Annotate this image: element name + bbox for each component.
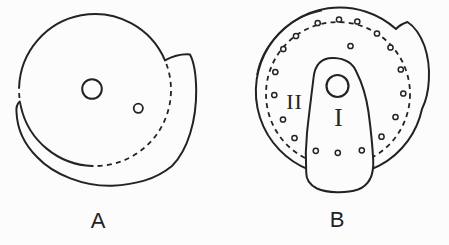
perforation-dot xyxy=(335,150,340,155)
region-label-inner: I xyxy=(334,104,342,131)
panel-a-caption: A xyxy=(91,208,106,233)
perforation-dot xyxy=(398,67,403,72)
perforation-dot xyxy=(293,33,298,38)
inner-perforation-dot xyxy=(348,43,353,48)
perforation-dot xyxy=(313,148,318,153)
panel-b-caption: B xyxy=(330,207,345,232)
operculum-figure: A II I B xyxy=(0,0,449,245)
perforation-dot xyxy=(315,20,320,25)
perforation-dot xyxy=(281,46,286,51)
perforation-dot xyxy=(355,19,360,24)
perforation-dot xyxy=(393,114,398,119)
figure-canvas: A II I B xyxy=(0,0,449,245)
perforation-dot xyxy=(388,45,393,50)
perforation-dot xyxy=(401,91,406,96)
perforation-dot xyxy=(273,69,278,74)
panel-b-disc: II I B xyxy=(256,7,429,232)
panel-a-disc: A xyxy=(16,14,196,233)
perforation-dot xyxy=(272,92,277,97)
region-label-outer: II xyxy=(286,89,303,114)
disc-a-body-fill xyxy=(16,14,196,186)
perforation-dot xyxy=(280,117,285,122)
perforation-dot xyxy=(374,31,379,36)
perforation-dot xyxy=(292,135,297,140)
perforation-dot xyxy=(379,134,384,139)
perforation-dot xyxy=(359,148,364,153)
perforation-dot xyxy=(336,17,341,22)
